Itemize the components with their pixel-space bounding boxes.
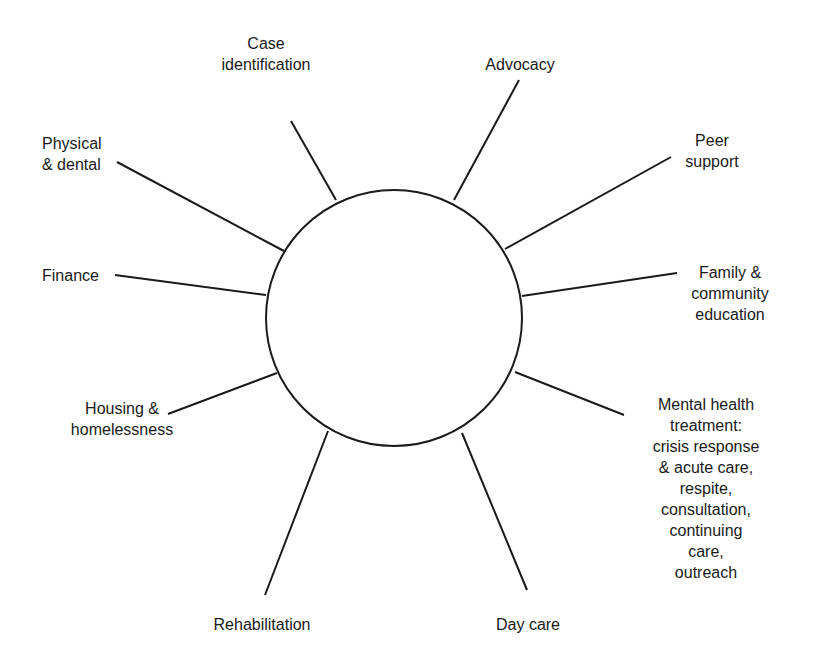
label-mental-health-treatment: Mental health treatment: crisis response…	[651, 394, 761, 583]
spoke-line-family-community-education	[522, 273, 677, 296]
spoke-line-peer-support	[505, 157, 671, 249]
spoke-line-advocacy	[454, 80, 519, 200]
spoke-line-physical-dental	[117, 162, 284, 251]
spoke-line-case-identification	[291, 121, 336, 200]
label-rehabilitation: Rehabilitation	[214, 614, 311, 635]
label-day-care: Day care	[496, 614, 560, 635]
label-housing-homelessness: Housing & homelessness	[71, 398, 173, 440]
spoke-line-housing-homelessness	[168, 373, 277, 414]
label-finance: Finance	[42, 265, 99, 286]
label-advocacy: Advocacy	[485, 54, 554, 75]
label-physical-dental: Physical & dental	[42, 133, 102, 175]
label-family-community-education: Family & community education	[691, 262, 768, 325]
spoke-line-rehabilitation	[265, 431, 328, 595]
label-case-identification: Case identification	[222, 33, 311, 75]
spoke-line-day-care	[462, 433, 527, 590]
spoke-line-mental-health-treatment	[515, 372, 624, 415]
label-peer-support: Peer support	[685, 130, 738, 172]
central-hub-circle	[266, 190, 522, 446]
spoke-line-finance	[115, 275, 266, 295]
